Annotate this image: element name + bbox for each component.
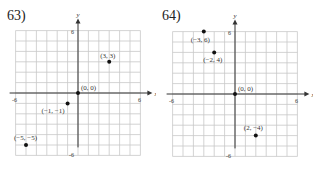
y-axis-label: y: [232, 12, 237, 20]
point-marker: [107, 60, 111, 64]
point-marker: [66, 101, 70, 105]
y-tick-min: -6: [226, 153, 231, 159]
y-axis-label: y: [75, 11, 80, 19]
point-marker: [254, 134, 258, 138]
point-label: (−3, 6): [191, 36, 211, 44]
point-label: (2, −4): [244, 124, 264, 132]
point-marker: [212, 50, 216, 54]
problem-63-panel: 63) xy-666-6(3, 3)(0, 0)(−1, −1)(−5, −5): [0, 0, 156, 174]
point-label: (0, 0): [238, 85, 254, 93]
y-tick-max: 6: [71, 29, 74, 35]
point-label: (−1, −1): [42, 107, 66, 115]
x-tick-max: 6: [295, 98, 298, 104]
x-tick-max: 6: [138, 97, 141, 103]
y-arrow-icon: [233, 20, 238, 25]
coordinate-plane-64: xy-666-6(−3, 6)(−2, 4)(0, 0)(2, −4): [156, 0, 313, 174]
point-marker: [233, 92, 237, 96]
x-arrow-icon: [147, 91, 152, 96]
x-arrow-icon: [304, 92, 309, 97]
point-label: (−5, −5): [14, 134, 38, 142]
point-label: (−2, 4): [203, 56, 223, 64]
coordinate-plane-63: xy-666-6(3, 3)(0, 0)(−1, −1)(−5, −5): [0, 0, 156, 174]
y-arrow-icon: [76, 19, 81, 24]
point-label: (3, 3): [100, 52, 116, 60]
problem-64-panel: 64) xy-666-6(−3, 6)(−2, 4)(0, 0)(2, −4): [156, 0, 312, 174]
point-marker: [24, 143, 28, 147]
x-tick-min: -6: [169, 98, 174, 104]
point-marker: [202, 30, 206, 34]
y-tick-min: -6: [69, 152, 74, 158]
x-tick-min: -6: [12, 97, 17, 103]
x-axis-label: x: [310, 91, 313, 99]
y-tick-max: 6: [228, 30, 231, 36]
point-marker: [76, 91, 80, 95]
point-label: (0, 0): [81, 84, 97, 92]
